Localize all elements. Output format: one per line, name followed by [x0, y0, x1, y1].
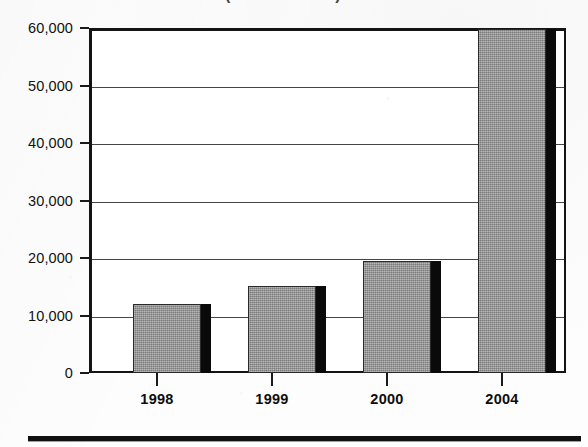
- y-tick-label: 20,000: [28, 250, 73, 266]
- y-tick-label: 50,000: [28, 78, 73, 94]
- x-tick-label-1999: 1999: [255, 391, 288, 407]
- x-tick-label-1998: 1998: [140, 391, 173, 407]
- bar-fill: [248, 286, 316, 373]
- x-tick-mark: [386, 373, 388, 386]
- y-axis: 010,00020,00030,00040,00050,00060,000: [0, 0, 89, 447]
- x-tick-mark: [271, 373, 273, 386]
- chart-title-text: (in thousands): [225, 0, 341, 3]
- y-tick-label: 0: [65, 365, 73, 381]
- bar-fill: [363, 261, 431, 373]
- bar-fill: [133, 304, 201, 373]
- x-tick-mark: [501, 373, 503, 386]
- y-tick-mark: [80, 315, 89, 317]
- y-tick-label: 10,000: [28, 308, 73, 324]
- y-tick-mark: [80, 27, 89, 29]
- y-tick-label: 60,000: [28, 20, 73, 36]
- bar-fill: [478, 29, 546, 373]
- x-tick-label-2004: 2004: [485, 391, 518, 407]
- footer-rule-shadow: [28, 441, 581, 442]
- x-tick-mark: [156, 373, 158, 386]
- y-tick-mark: [80, 372, 89, 374]
- x-tick-label-2000: 2000: [370, 391, 403, 407]
- chart-plot-area: [89, 28, 566, 373]
- y-tick-label: 30,000: [28, 193, 73, 209]
- y-tick-mark: [80, 257, 89, 259]
- y-tick-label: 40,000: [28, 135, 73, 151]
- y-tick-mark: [80, 85, 89, 87]
- y-tick-mark: [80, 200, 89, 202]
- y-tick-mark: [80, 142, 89, 144]
